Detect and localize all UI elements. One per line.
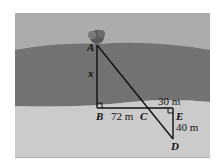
river-width-diagram: A x B 72 m C 30 m E 40 m D: [0, 0, 218, 168]
label-D: D: [170, 140, 179, 152]
label-CE: 30 m: [158, 95, 181, 107]
river: [15, 43, 210, 107]
label-B: B: [95, 110, 103, 122]
label-C: C: [140, 110, 148, 122]
label-BC: 72 m: [111, 110, 134, 122]
label-A: A: [86, 41, 94, 53]
label-ED: 40 m: [176, 121, 199, 133]
label-x: x: [87, 67, 94, 79]
